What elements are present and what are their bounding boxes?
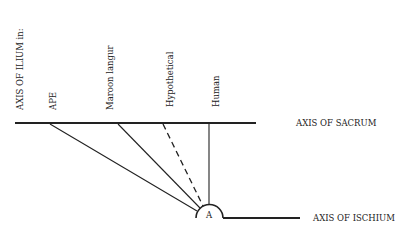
maroon-langur-ilium-line (118, 124, 200, 208)
hypothetical-ilium-line (163, 124, 203, 206)
label-hypothetical: Hypothetical (165, 51, 175, 107)
label-ape: APE (48, 92, 58, 111)
ilium-axis-diagram: AXIS OF ILIUM in: APE Maroon langur Hypo… (0, 0, 412, 231)
axis-of-ilium-label: AXIS OF ILIUM in: (15, 28, 25, 111)
axis-of-sacrum-label: AXIS OF SACRUM (295, 118, 377, 128)
point-a-label: A (205, 210, 213, 220)
label-human: Human (211, 75, 221, 107)
ape-ilium-line (50, 124, 197, 211)
axis-of-ischium-label: AXIS OF ISCHIUM (312, 213, 395, 223)
label-maroon-langur: Maroon langur (105, 45, 115, 110)
